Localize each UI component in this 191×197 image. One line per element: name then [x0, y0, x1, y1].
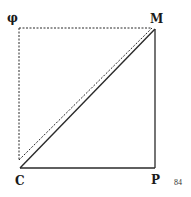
diagonal-cm: [20, 29, 155, 168]
dashed-diagonal: [19, 28, 152, 160]
geometric-diagram: [0, 0, 191, 197]
page-number: 84: [174, 179, 182, 187]
label-c: C: [15, 175, 25, 187]
label-p: P: [151, 174, 160, 186]
label-phi: φ: [7, 12, 18, 24]
label-m: M: [150, 13, 163, 25]
